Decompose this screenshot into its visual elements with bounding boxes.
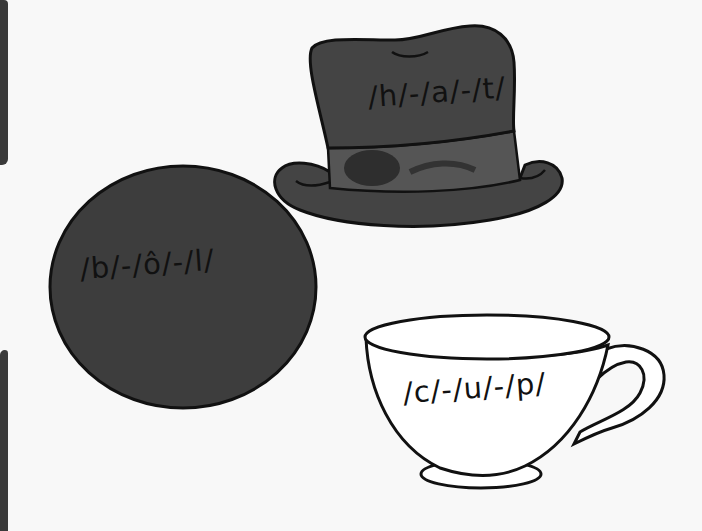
phonics-worksheet: /b/-/ô/-/l/ /h/-/a/-/t/ /c/-/u/-/p/	[0, 0, 702, 531]
hat-illustration	[275, 26, 563, 227]
ball-illustration	[50, 166, 316, 408]
